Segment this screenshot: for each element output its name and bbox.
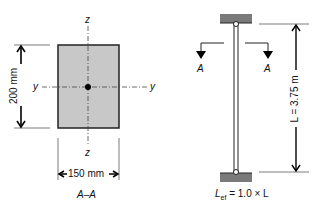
effective-length-label: Lef = 1.0 × L: [215, 189, 269, 203]
bottom-pin: [234, 170, 239, 175]
section-mark-right: A: [264, 64, 271, 74]
arrow-down-icon: [263, 51, 273, 59]
width-dimension-label: 150 mm: [68, 169, 104, 179]
y-axis-label-left: y: [33, 82, 38, 92]
column-member: [234, 24, 238, 172]
height-dimension-label: 200 mm: [9, 68, 19, 104]
arrow-down-icon: [196, 51, 206, 59]
y-axis-label-right: y: [150, 82, 155, 92]
section-caption: A–A: [77, 190, 96, 200]
section-cut-left: [201, 43, 224, 52]
diagram-canvas: [0, 0, 322, 209]
z-axis-label-top: z: [85, 15, 90, 25]
top-pin: [234, 22, 239, 27]
length-dimension-label: L = 3.75 m: [290, 75, 300, 122]
section-cut-right: [245, 43, 268, 52]
centroid-dot: [85, 84, 91, 90]
z-axis-label-bottom: z: [85, 148, 90, 158]
section-mark-left: A: [197, 64, 204, 74]
